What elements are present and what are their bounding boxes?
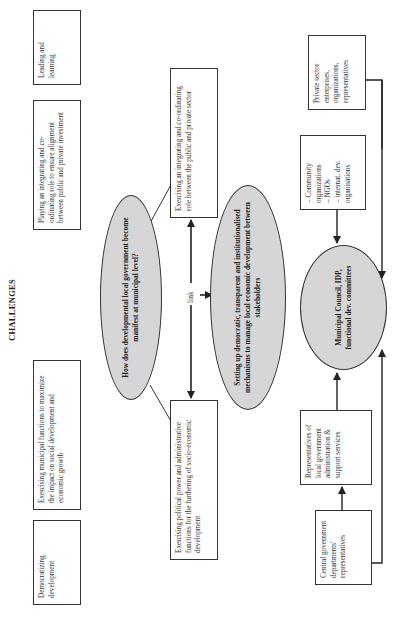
stakeholder-private-sector: Private sector enterprises, organization… bbox=[308, 35, 366, 110]
council-ellipse: Municipal Council, IDP, functional dev. … bbox=[300, 245, 387, 370]
stakeholder-local-gov-reps: Representatives of local government admi… bbox=[300, 410, 372, 485]
community-item: Community organizations bbox=[305, 142, 324, 203]
challenge-leading-learning: Leading and learning bbox=[33, 10, 81, 85]
community-item: internat. dev. organisations bbox=[334, 142, 353, 203]
link-label: link bbox=[186, 291, 195, 303]
challenge-integrating-investment: Playing an integrating and co-ordinating… bbox=[33, 100, 81, 230]
central-question-ellipse: How does developmental local government … bbox=[100, 195, 162, 400]
challenge-municipal-functions: Exercising municipal functions to maximi… bbox=[33, 360, 81, 510]
branch-integrating-role: Exercising an integrating and co-ordinat… bbox=[170, 68, 218, 218]
branch-political-power: Exercising political power and administr… bbox=[170, 400, 218, 560]
stakeholder-community: Community organizations NGOs internat. d… bbox=[300, 135, 366, 210]
community-item: NGOs bbox=[324, 142, 334, 203]
diagram-title: CHALLENGES bbox=[7, 279, 17, 341]
mechanisms-ellipse: Setting up democratic, transparent and i… bbox=[210, 185, 286, 410]
diagram-canvas: CHALLENGES Democratizing development Exe… bbox=[0, 0, 419, 623]
challenge-democratizing: Democratizing development bbox=[33, 520, 81, 605]
stakeholder-central-gov-reps: Central government departments' represen… bbox=[315, 510, 372, 585]
